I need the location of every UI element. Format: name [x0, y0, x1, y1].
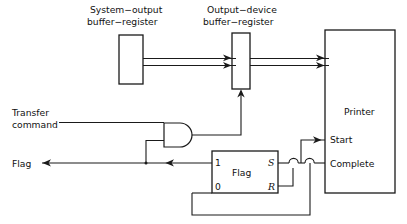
flag-output-pin-0-label: 0 [215, 181, 221, 192]
system-output-buffer-register-label: System−output buffer−register [87, 4, 163, 27]
bus-arrowhead-upper [223, 55, 232, 62]
out-buf-label-line1: Output−device [207, 4, 277, 15]
bus-outbuf-to-printer [250, 55, 329, 69]
block-diagram: System−output buffer−register Output−dev… [0, 0, 407, 224]
complete-label: Complete [330, 158, 375, 169]
and-gate[interactable] [164, 123, 192, 147]
transfer-command-label-line1: Transfer [11, 107, 49, 118]
flag-input-pin-s-label: S [268, 157, 274, 168]
transfer-command-label-line2: command [12, 119, 58, 130]
system-output-buffer-register-box[interactable] [119, 35, 143, 84]
start-label: Start [330, 134, 353, 145]
transfer-command-signal: Transfer command [11, 107, 164, 130]
and-gate-output-wire [192, 93, 241, 135]
wire-hop-left [289, 158, 298, 163]
diagram-canvas: System−output buffer−register Output−dev… [0, 0, 407, 224]
flag-output-label: Flag [12, 158, 31, 169]
bus-sysbuf-to-outbuf [143, 55, 236, 69]
output-device-buffer-register-label: Output−device buffer−register [203, 4, 277, 27]
sys-buf-label-line1: System−output [90, 4, 163, 15]
flag-junction-dot [145, 162, 148, 165]
bus2-arrowhead-upper [316, 55, 325, 62]
flag-input-pin-r-label: R [267, 181, 275, 192]
flag-output-pin-1-label: 1 [215, 157, 221, 168]
printer-label: Printer [344, 106, 375, 117]
flag-flipflop[interactable]: Flag 1 0 S R [212, 151, 278, 193]
sys-buf-label-line2: buffer−register [87, 16, 158, 27]
reset-input-wire [278, 168, 293, 186]
flag-flipflop-label: Flag [232, 167, 251, 178]
flag-output-signal: Flag [12, 158, 212, 169]
out-buf-label-line2: buffer−register [203, 16, 274, 27]
wire-hop-right [305, 158, 314, 163]
output-device-buffer-register-box[interactable] [232, 33, 250, 89]
and-gate-second-input-wire [146, 141, 164, 164]
